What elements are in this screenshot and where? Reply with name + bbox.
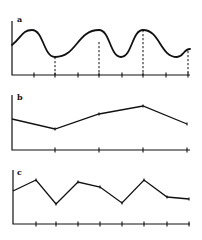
panel-a: a (12, 14, 190, 78)
dashed-guides-a (55, 30, 188, 75)
polyline-b (12, 106, 187, 129)
figure-canvas: a b c (0, 0, 202, 240)
panel-b: b (12, 92, 190, 153)
panel-label-a: a (17, 14, 22, 24)
sinusoid-curve (12, 30, 190, 57)
panel-c: c (13, 167, 190, 227)
axis-c (13, 170, 190, 224)
panel-label-c: c (17, 167, 22, 177)
panel-label-b: b (17, 92, 23, 102)
polyline-c (13, 180, 189, 204)
points-b (55, 105, 187, 131)
axis-b (12, 95, 190, 150)
